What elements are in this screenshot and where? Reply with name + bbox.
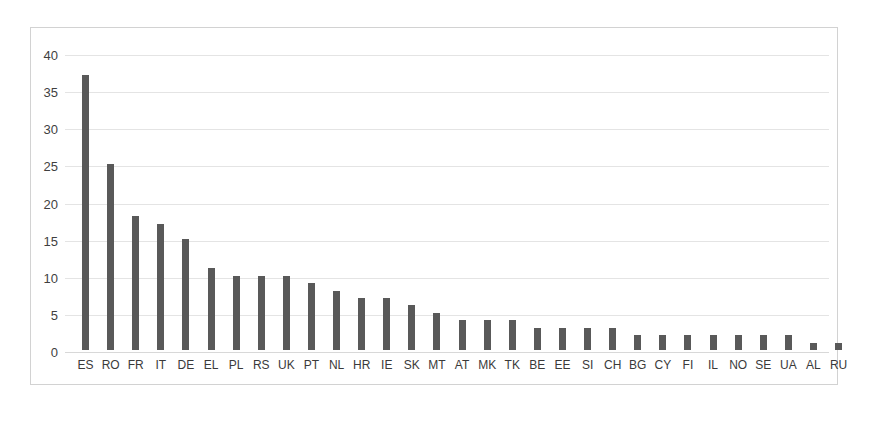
bar bbox=[383, 298, 390, 350]
bar-slot: TK bbox=[500, 320, 525, 350]
bar bbox=[559, 328, 566, 350]
y-axis-tick-label: 35 bbox=[44, 86, 58, 99]
x-axis-tick-label: ES bbox=[73, 359, 98, 371]
bar bbox=[459, 320, 466, 350]
x-axis-tick-label: HR bbox=[349, 359, 374, 371]
y-axis-tick-label: 20 bbox=[44, 197, 58, 210]
x-axis-tick-label: EL bbox=[199, 359, 224, 371]
bar bbox=[710, 335, 717, 350]
x-axis-tick-label: SK bbox=[399, 359, 424, 371]
bar bbox=[333, 291, 340, 350]
bar-slot: FR bbox=[123, 216, 148, 350]
bar-slot: SK bbox=[399, 305, 424, 350]
bar-slot: FI bbox=[675, 335, 700, 350]
bar bbox=[157, 224, 164, 350]
bar bbox=[785, 335, 792, 350]
y-axis-tick-label: 10 bbox=[44, 271, 58, 284]
bars-group: ESROFRITDEELPLRSUKPTNLHRIESKMTATMKTKBEEE… bbox=[65, 28, 829, 384]
bar-slot: IL bbox=[701, 335, 726, 350]
bar-slot: IT bbox=[148, 224, 173, 350]
bar-slot: SI bbox=[575, 328, 600, 350]
x-axis-tick-label: RO bbox=[98, 359, 123, 371]
bar bbox=[82, 75, 89, 350]
bar bbox=[484, 320, 491, 350]
y-axis-tick-label: 15 bbox=[44, 234, 58, 247]
bar bbox=[735, 335, 742, 350]
bar-slot: UA bbox=[776, 335, 801, 350]
bar bbox=[609, 328, 616, 350]
x-axis-tick-label: RU bbox=[826, 359, 851, 371]
x-axis-tick-label: UK bbox=[274, 359, 299, 371]
bar bbox=[509, 320, 516, 350]
x-axis-tick-label: BG bbox=[625, 359, 650, 371]
bar-slot: BG bbox=[625, 335, 650, 350]
bar-slot: DE bbox=[173, 239, 198, 350]
bar bbox=[433, 313, 440, 350]
bar bbox=[308, 283, 315, 350]
bar-slot: RU bbox=[826, 343, 851, 350]
bar-slot: RS bbox=[249, 276, 274, 350]
bar-slot: AT bbox=[450, 320, 475, 350]
x-axis-tick-label: UA bbox=[776, 359, 801, 371]
bar-slot: EL bbox=[199, 268, 224, 350]
bar-slot: CY bbox=[650, 335, 675, 350]
bar bbox=[760, 335, 767, 350]
bar bbox=[659, 335, 666, 350]
x-axis-tick-label: FR bbox=[123, 359, 148, 371]
bar-slot: AL bbox=[801, 343, 826, 350]
bar-slot: IE bbox=[374, 298, 399, 350]
bar-slot: CH bbox=[600, 328, 625, 350]
bar bbox=[534, 328, 541, 350]
x-axis-tick-label: SE bbox=[751, 359, 776, 371]
plot-area: 0510152025303540 ESROFRITDEELPLRSUKPTNLH… bbox=[65, 28, 829, 384]
bar bbox=[283, 276, 290, 350]
bar-slot: PT bbox=[299, 283, 324, 350]
bar bbox=[810, 343, 817, 350]
x-axis-tick-label: PT bbox=[299, 359, 324, 371]
y-axis-tick-label: 30 bbox=[44, 123, 58, 136]
y-axis-tick-label: 40 bbox=[44, 49, 58, 62]
bar-slot: MT bbox=[424, 313, 449, 350]
bar-slot: EE bbox=[550, 328, 575, 350]
x-axis-tick-label: NL bbox=[324, 359, 349, 371]
bar bbox=[684, 335, 691, 350]
x-axis-tick-label: CY bbox=[650, 359, 675, 371]
x-axis-tick-label: IT bbox=[148, 359, 173, 371]
bar bbox=[584, 328, 591, 350]
x-axis-tick-label: SI bbox=[575, 359, 600, 371]
bar-slot: NO bbox=[726, 335, 751, 350]
bar-slot: ES bbox=[73, 75, 98, 350]
bar bbox=[233, 276, 240, 350]
x-axis-tick-label: IL bbox=[701, 359, 726, 371]
x-axis-tick-label: AT bbox=[450, 359, 475, 371]
x-axis-tick-label: CH bbox=[600, 359, 625, 371]
bar bbox=[107, 164, 114, 350]
bar bbox=[182, 239, 189, 350]
y-axis-tick-label: 5 bbox=[51, 308, 58, 321]
bar bbox=[132, 216, 139, 350]
bar-slot: SE bbox=[751, 335, 776, 350]
x-axis-tick-label: FI bbox=[675, 359, 700, 371]
bar-slot: PL bbox=[224, 276, 249, 350]
bar bbox=[634, 335, 641, 350]
x-axis-tick-label: MT bbox=[424, 359, 449, 371]
bar-slot: BE bbox=[525, 328, 550, 350]
bar bbox=[408, 305, 415, 350]
bar bbox=[208, 268, 215, 350]
x-axis-tick-label: DE bbox=[173, 359, 198, 371]
y-axis-tick-label: 0 bbox=[51, 346, 58, 359]
bar-chart-figure: 0510152025303540 ESROFRITDEELPLRSUKPTNLH… bbox=[0, 0, 875, 423]
bar bbox=[835, 343, 842, 350]
x-axis-tick-label: AL bbox=[801, 359, 826, 371]
x-axis-tick-label: TK bbox=[500, 359, 525, 371]
x-axis-tick-label: BE bbox=[525, 359, 550, 371]
x-axis-tick-label: NO bbox=[726, 359, 751, 371]
x-axis-tick-label: IE bbox=[374, 359, 399, 371]
chart-plot-frame: 0510152025303540 ESROFRITDEELPLRSUKPTNLH… bbox=[30, 27, 838, 385]
y-axis-tick-label: 25 bbox=[44, 160, 58, 173]
bar bbox=[258, 276, 265, 350]
x-axis-tick-label: RS bbox=[249, 359, 274, 371]
bar-slot: HR bbox=[349, 298, 374, 350]
x-axis-tick-label: MK bbox=[475, 359, 500, 371]
bar-slot: UK bbox=[274, 276, 299, 350]
